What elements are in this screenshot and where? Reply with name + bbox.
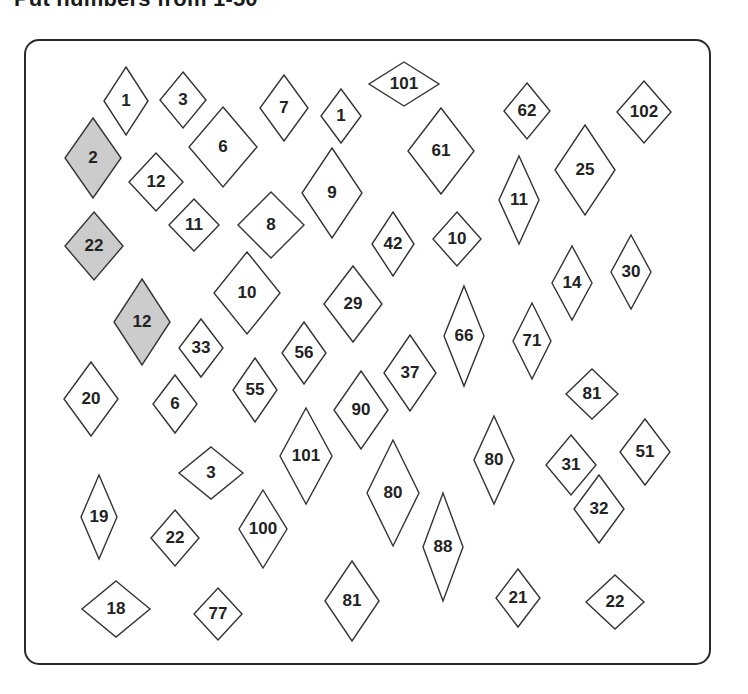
diamond-shape-icon — [334, 371, 388, 449]
diamond-cell[interactable]: 11 — [169, 199, 219, 251]
diamond-cell[interactable]: 33 — [179, 319, 223, 377]
diamond-shape-icon — [552, 246, 592, 320]
diamond-shape-icon — [65, 118, 121, 198]
diamond-cell[interactable]: 6 — [153, 375, 197, 433]
diamond-cell[interactable]: 1 — [321, 89, 361, 143]
diamond-cell[interactable]: 10 — [433, 212, 481, 266]
diamond-cell[interactable]: 88 — [423, 493, 463, 601]
diamond-shape-icon — [408, 108, 474, 194]
diamond-shape-icon — [233, 358, 277, 422]
diamond-shape-icon — [260, 75, 308, 141]
diamond-cell[interactable]: 30 — [611, 235, 651, 309]
diamond-shape-icon — [433, 212, 481, 266]
diamond-shape-icon — [65, 212, 123, 280]
diamond-shape-icon — [617, 81, 671, 143]
diamond-cell[interactable]: 81 — [325, 561, 379, 641]
diamond-shape-icon — [586, 575, 644, 629]
diamond-cell-shaded[interactable]: 22 — [65, 212, 123, 280]
diamond-shape-icon — [114, 279, 170, 365]
diamond-cell[interactable]: 55 — [233, 358, 277, 422]
diamond-cell[interactable]: 56 — [282, 322, 326, 384]
diamond-cell-shaded[interactable]: 2 — [65, 118, 121, 198]
diamond-cell[interactable]: 22 — [586, 575, 644, 629]
diamond-shape-icon — [82, 581, 150, 637]
diamond-shape-icon — [324, 266, 382, 342]
diamond-shape-icon — [81, 475, 117, 559]
diamond-shape-icon — [179, 319, 223, 377]
diamond-cell[interactable]: 14 — [552, 246, 592, 320]
diamond-cell[interactable]: 8 — [238, 192, 304, 258]
diamond-shape-icon — [384, 335, 436, 411]
diamond-cell[interactable]: 37 — [384, 335, 436, 411]
diamond-cell[interactable]: 9 — [302, 148, 362, 238]
diamond-cell[interactable]: 3 — [179, 447, 243, 499]
diamond-cell[interactable]: 101 — [280, 408, 332, 504]
diamond-cell[interactable]: 90 — [334, 371, 388, 449]
diamond-shape-icon — [153, 375, 197, 433]
diamond-shape-icon — [239, 490, 287, 568]
diamond-shape-icon — [574, 475, 624, 543]
diamond-shape-icon — [179, 447, 243, 499]
diamond-shape-icon — [513, 303, 551, 379]
diamond-cell[interactable]: 18 — [82, 581, 150, 637]
diamond-cell[interactable]: 77 — [194, 588, 242, 640]
diamond-shape-icon — [189, 107, 257, 187]
diamond-shape-icon — [474, 416, 514, 504]
diamond-shape-icon — [620, 419, 670, 485]
diamond-cell[interactable]: 11 — [499, 156, 539, 244]
diamond-cell[interactable]: 19 — [81, 475, 117, 559]
diamond-shape-icon — [325, 561, 379, 641]
diamond-cell[interactable]: 32 — [574, 475, 624, 543]
diamond-grid: 1371101621022661129112511822421014301029… — [0, 0, 748, 694]
diamond-shape-icon — [321, 89, 361, 143]
diamond-shape-icon — [611, 235, 651, 309]
diamond-shape-icon — [555, 125, 615, 215]
diamond-shape-icon — [194, 588, 242, 640]
diamond-cell[interactable]: 71 — [513, 303, 551, 379]
diamond-shape-icon — [369, 62, 439, 106]
diamond-cell[interactable]: 80 — [367, 440, 419, 546]
diamond-shape-icon — [151, 510, 199, 566]
diamond-cell[interactable]: 66 — [444, 286, 484, 386]
diamond-cell-shaded[interactable]: 12 — [114, 279, 170, 365]
diamond-cell[interactable]: 29 — [324, 266, 382, 342]
diamond-shape-icon — [64, 362, 118, 436]
diamond-shape-icon — [496, 569, 540, 627]
diamond-cell[interactable]: 51 — [620, 419, 670, 485]
diamond-shape-icon — [367, 440, 419, 546]
diamond-shape-icon — [169, 199, 219, 251]
diamond-shape-icon — [504, 83, 550, 139]
diamond-cell[interactable]: 100 — [239, 490, 287, 568]
diamond-shape-icon — [444, 286, 484, 386]
diamond-cell[interactable]: 22 — [151, 510, 199, 566]
diamond-cell[interactable]: 61 — [408, 108, 474, 194]
diamond-shape-icon — [282, 322, 326, 384]
diamond-cell[interactable]: 62 — [504, 83, 550, 139]
diamond-cell[interactable]: 102 — [617, 81, 671, 143]
diamond-cell[interactable]: 20 — [64, 362, 118, 436]
diamond-cell[interactable]: 101 — [369, 62, 439, 106]
diamond-cell[interactable]: 80 — [474, 416, 514, 504]
diamond-cell[interactable]: 10 — [214, 252, 280, 334]
diamond-cell[interactable]: 81 — [566, 369, 618, 419]
diamond-cell[interactable]: 25 — [555, 125, 615, 215]
diamond-shape-icon — [566, 369, 618, 419]
diamond-cell[interactable]: 6 — [189, 107, 257, 187]
diamond-shape-icon — [302, 148, 362, 238]
diamond-shape-icon — [214, 252, 280, 334]
diamond-shape-icon — [280, 408, 332, 504]
diamond-shape-icon — [499, 156, 539, 244]
diamond-cell[interactable]: 7 — [260, 75, 308, 141]
diamond-shape-icon — [238, 192, 304, 258]
diamond-shape-icon — [423, 493, 463, 601]
diamond-cell[interactable]: 21 — [496, 569, 540, 627]
